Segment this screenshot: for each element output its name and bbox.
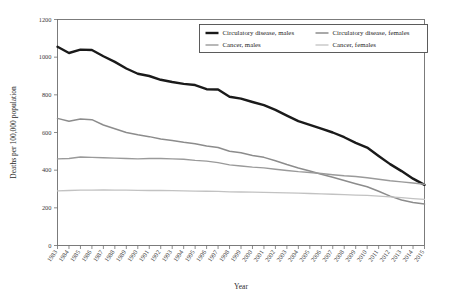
x-tick-label: 1997: [206, 249, 219, 263]
y-tick-label: 800: [42, 91, 52, 98]
x-tick-label: 1993: [160, 249, 173, 263]
x-tick-label: 1984: [57, 248, 70, 263]
y-tick-label: 0: [48, 242, 51, 249]
x-tick-label: 2005: [298, 249, 311, 263]
chart-figure: 020040060080010001200Deaths per 100,000 …: [0, 0, 460, 305]
x-tick-label: 1986: [80, 249, 93, 263]
legend-label-2: Cancer, males: [223, 41, 262, 48]
y-tick-label: 1000: [39, 53, 52, 60]
x-tick-label: 2012: [378, 249, 391, 263]
x-tick-label: 2011: [367, 249, 380, 263]
x-tick-label: 1999: [229, 249, 242, 263]
y-tick-label: 200: [42, 204, 52, 211]
x-tick-label: 1994: [172, 248, 185, 263]
series-line-0: [58, 47, 425, 185]
x-tick-label: 2008: [332, 249, 345, 263]
x-tick-label: 1987: [91, 249, 104, 263]
x-tick-label: 1992: [149, 249, 162, 263]
x-tick-label: 1988: [103, 249, 116, 263]
x-tick-label: 2007: [321, 249, 334, 263]
x-tick-label: 2000: [240, 249, 253, 263]
x-tick-label: 1990: [126, 249, 139, 263]
x-tick-label: 2014: [401, 248, 414, 263]
x-tick-label: 1983: [45, 249, 58, 263]
x-tick-label: 2004: [286, 248, 299, 263]
y-tick-label: 600: [42, 129, 52, 136]
plot-frame: [58, 20, 425, 246]
x-tick-label: 2013: [389, 249, 402, 263]
x-tick-label: 2015: [412, 249, 425, 263]
x-axis-title: Year: [234, 282, 248, 291]
x-tick-label: 2006: [309, 249, 322, 263]
legend-label-0: Circulatory disease, males: [223, 29, 295, 36]
legend-label-1: Circulatory disease, females: [333, 29, 410, 36]
x-tick-label: 1991: [137, 249, 150, 263]
line-chart: 020040060080010001200Deaths per 100,000 …: [0, 0, 460, 305]
x-tick-label: 1995: [183, 249, 196, 263]
series-line-3: [58, 190, 425, 199]
x-tick-label: 2002: [263, 249, 276, 263]
y-tick-label: 400: [42, 166, 52, 173]
x-tick-label: 1998: [217, 249, 230, 263]
x-tick-label: 2010: [355, 249, 368, 263]
series-line-1: [58, 118, 425, 204]
x-tick-label: 1996: [194, 249, 207, 263]
x-tick-label: 2009: [344, 249, 357, 263]
y-tick-label: 1200: [39, 16, 52, 23]
x-tick-label: 1985: [68, 249, 81, 263]
legend-label-3: Cancer, females: [333, 41, 377, 48]
y-axis-title: Deaths per 100,000 population: [9, 86, 18, 179]
x-tick-label: 2001: [252, 249, 265, 263]
x-tick-label: 1989: [114, 249, 127, 263]
x-tick-label: 2003: [275, 249, 288, 263]
series-line-2: [58, 157, 425, 184]
